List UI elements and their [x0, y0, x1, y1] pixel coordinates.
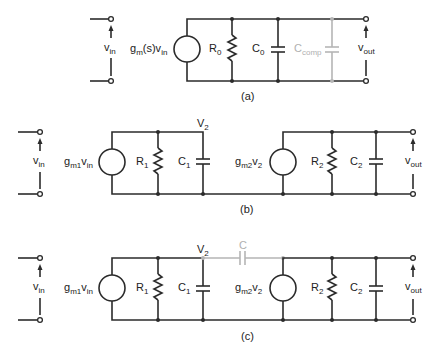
vout-label-c: vout [405, 281, 422, 295]
source2-label-b: gm2v2 [235, 156, 262, 170]
c1-label-b: C1 [178, 156, 190, 170]
arrow-up-icon [109, 25, 114, 31]
c2-label-b: C2 [350, 156, 362, 170]
input-terminal-bottom [109, 79, 114, 84]
vin-label-a: vin [104, 42, 116, 56]
caption-c: (c) [241, 330, 254, 342]
source1-label-c: gm1vin [64, 282, 93, 296]
input-terminal-top [109, 17, 114, 22]
source1-label-b: gm1vin [64, 156, 93, 170]
caption-b: (b) [240, 203, 253, 215]
c-compensation-label: C [239, 240, 247, 251]
r1-label-b: R1 [136, 156, 148, 170]
v2-label-c: V2 [197, 244, 209, 258]
c0-label: C0 [252, 43, 264, 57]
source-label-a: gm(s)vin [130, 43, 167, 57]
v2-label-b: V2 [197, 118, 209, 132]
r2-label-b: R2 [311, 156, 323, 170]
vin-label-b: vin [33, 155, 45, 169]
r2-label-c: R2 [311, 282, 323, 296]
ccomp-label: Ccomp [294, 43, 322, 57]
output-terminal-bottom [364, 79, 369, 84]
current-source-icon [174, 36, 200, 62]
vout-label-b: vout [405, 155, 422, 169]
caption-a: (a) [241, 90, 254, 102]
source2-label-c: gm2v2 [235, 282, 262, 296]
vin-label-c: vin [33, 281, 45, 295]
vout-label-a: vout [358, 42, 375, 56]
r1-label-c: R1 [136, 282, 148, 296]
c1-label-c: C1 [178, 282, 190, 296]
c2-label-c: C2 [350, 282, 362, 296]
r0-label: R0 [209, 43, 221, 57]
output-terminal-top [364, 17, 369, 22]
